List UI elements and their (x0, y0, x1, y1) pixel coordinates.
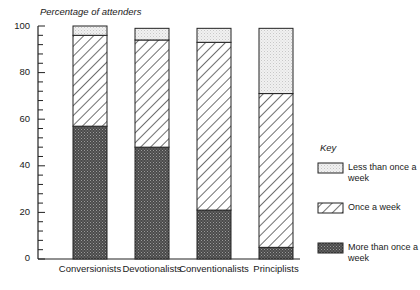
legend-label-once-a-week: Once a week (348, 202, 420, 213)
y-tick-label: 0 (8, 252, 30, 263)
legend-swatch-less-than-once (318, 163, 343, 173)
y-tick-label: 100 (8, 20, 30, 31)
bar-segment-principlists-more-than-once-a-week (259, 247, 293, 259)
bar-segment-principlists-less-than-once-a-week (259, 28, 293, 93)
y-tick-label: 20 (8, 206, 30, 217)
legend-label-less-than-once: Less than once a week (348, 162, 420, 184)
bar-segment-conventionalists-more-than-once-a-week (197, 210, 231, 259)
bar-segment-conversionists-more-than-once-a-week (73, 126, 107, 259)
category-label-principlists: Principlists (236, 263, 316, 274)
bars (73, 26, 293, 259)
y-tick-label: 60 (8, 113, 30, 124)
bar-segment-devotionalists-once-a-week (135, 40, 169, 147)
legend-swatches (318, 163, 343, 253)
bar-segment-conventionalists-less-than-once-a-week (197, 28, 231, 42)
bar-segment-conversionists-once-a-week (73, 35, 107, 126)
legend-label-more-than-once: More than once a week (348, 242, 420, 264)
legend-swatch-more-than-once (318, 243, 343, 253)
y-tick-label: 40 (8, 159, 30, 170)
bar-segment-devotionalists-more-than-once-a-week (135, 147, 169, 259)
legend-title: Key (320, 142, 336, 153)
bar-segment-devotionalists-less-than-once-a-week (135, 28, 169, 40)
y-tick-label: 80 (8, 66, 30, 77)
bar-segment-principlists-once-a-week (259, 94, 293, 248)
y-axis-title: Percentage of attenders (40, 6, 141, 17)
bar-segment-conventionalists-once-a-week (197, 42, 231, 210)
bar-segment-conversionists-less-than-once-a-week (73, 26, 107, 35)
legend-swatch-once-a-week (318, 203, 343, 213)
